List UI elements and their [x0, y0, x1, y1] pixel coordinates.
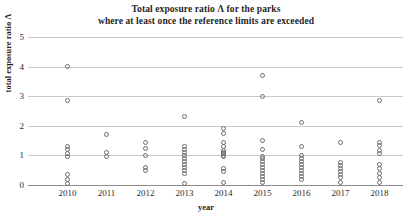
gridline	[28, 67, 403, 68]
x-tick-label: 2016	[282, 189, 322, 198]
x-tick-label: 2010	[48, 189, 88, 198]
chart-title-line-2: where at least once the reference limits…	[0, 16, 412, 28]
data-point	[143, 146, 148, 151]
x-tick-label: 2018	[360, 189, 400, 198]
x-tick-label: 2012	[126, 189, 166, 198]
data-point	[182, 114, 187, 119]
x-tick-label: 2014	[204, 189, 244, 198]
data-point	[377, 180, 382, 185]
data-point	[338, 140, 343, 145]
data-point	[143, 168, 148, 173]
x-tick-label: 2011	[87, 189, 127, 198]
data-point	[65, 154, 70, 159]
data-point	[260, 73, 265, 78]
y-tick-label: 0	[6, 181, 24, 190]
data-point	[104, 154, 109, 159]
x-tick-label: 2017	[321, 189, 361, 198]
data-point	[143, 153, 148, 158]
data-point	[182, 171, 187, 176]
data-point	[221, 169, 226, 174]
x-axis-line	[28, 185, 403, 186]
gridline	[28, 126, 403, 127]
data-point	[260, 147, 265, 152]
chart-container: Total exposure ratio Λ for the parks whe…	[0, 0, 412, 223]
gridline	[28, 96, 403, 97]
data-point	[221, 154, 226, 159]
data-point	[221, 180, 226, 185]
data-point	[221, 131, 226, 136]
data-point	[377, 143, 382, 148]
data-point	[65, 98, 70, 103]
data-point	[65, 181, 70, 186]
data-point	[260, 94, 265, 99]
y-axis-label: total exposure ratio Λ	[3, 0, 13, 113]
gridline	[28, 37, 403, 38]
gridline	[28, 155, 403, 156]
data-point	[143, 140, 148, 145]
data-point	[260, 138, 265, 143]
chart-title: Total exposure ratio Λ for the parks whe…	[0, 4, 412, 27]
data-point	[299, 120, 304, 125]
y-tick-label: 2	[6, 122, 24, 131]
data-point	[299, 144, 304, 149]
data-point	[65, 64, 70, 69]
x-axis-label: year	[0, 202, 412, 212]
chart-title-line-1: Total exposure ratio Λ for the parks	[0, 4, 412, 16]
x-tick-label: 2013	[165, 189, 205, 198]
x-tick-label: 2015	[243, 189, 283, 198]
data-point	[338, 180, 343, 185]
data-point	[299, 177, 304, 182]
data-point	[182, 181, 187, 186]
y-tick-label: 1	[6, 151, 24, 160]
data-point	[104, 132, 109, 137]
data-point	[260, 180, 265, 185]
data-point	[377, 98, 382, 103]
plot-area	[28, 37, 403, 185]
